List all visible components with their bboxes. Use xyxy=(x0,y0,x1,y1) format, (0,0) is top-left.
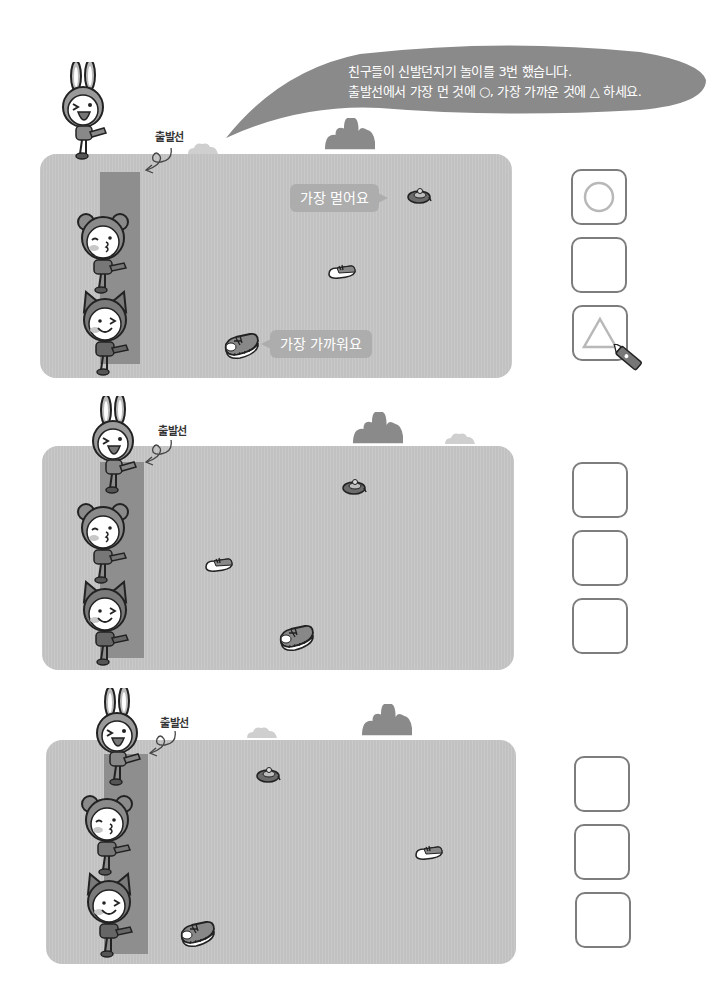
answer-box-1[interactable] xyxy=(572,462,628,518)
answer-box-2[interactable] xyxy=(574,824,630,880)
answer-box-1[interactable] xyxy=(574,756,630,812)
start-line-label: 출발선 xyxy=(158,422,187,438)
circle-icon xyxy=(581,179,617,215)
bush-decoration xyxy=(362,704,412,740)
instruction-text: 친구들이 신발던지기 놀이를 3번 했습니다. 출발선에서 가장 먼 것에 ○,… xyxy=(348,62,708,102)
bear-character xyxy=(80,790,140,880)
bear-character xyxy=(76,498,136,588)
instruction-line-1: 친구들이 신발던지기 놀이를 3번 했습니다. xyxy=(348,62,708,82)
arrow-icon xyxy=(147,731,181,759)
bush-decoration xyxy=(353,412,403,448)
sneaker-shoe xyxy=(327,264,359,282)
cat-character xyxy=(82,872,142,962)
nearest-callout: 가장 가까워요 xyxy=(270,330,372,358)
rabbit-character xyxy=(86,396,146,496)
small-bush-decoration xyxy=(247,726,279,740)
answer-box-3[interactable] xyxy=(572,598,628,654)
rabbit-character xyxy=(90,688,150,788)
small-bush-decoration xyxy=(445,432,477,446)
answer-box-1[interactable] xyxy=(571,169,627,225)
start-line-label: 출발선 xyxy=(155,128,184,144)
arrow-icon xyxy=(143,440,177,468)
answer-box-2[interactable] xyxy=(572,530,628,586)
sneaker-large-shoe xyxy=(224,332,262,362)
answer-box-2[interactable] xyxy=(571,237,627,293)
arrow-icon xyxy=(143,148,177,176)
slipper-shoe xyxy=(256,766,284,784)
bear-character xyxy=(76,208,136,298)
sneaker-large-shoe xyxy=(279,624,317,654)
slipper-shoe xyxy=(407,187,435,205)
start-line-label: 출발선 xyxy=(160,714,189,730)
sneaker-shoe xyxy=(204,557,236,575)
farthest-callout: 가장 멀어요 xyxy=(290,184,379,212)
bush-decoration xyxy=(325,118,375,154)
answer-box-3[interactable] xyxy=(575,892,631,948)
sneaker-large-shoe xyxy=(180,920,218,950)
pencil-icon xyxy=(608,344,648,380)
cat-character xyxy=(78,290,138,380)
sneaker-shoe xyxy=(414,845,446,863)
rabbit-character xyxy=(56,62,116,162)
cat-character xyxy=(78,580,138,670)
slipper-shoe xyxy=(342,478,370,496)
instruction-line-2: 출발선에서 가장 먼 것에 ○, 가장 가까운 것에 △ 하세요. xyxy=(348,82,708,102)
